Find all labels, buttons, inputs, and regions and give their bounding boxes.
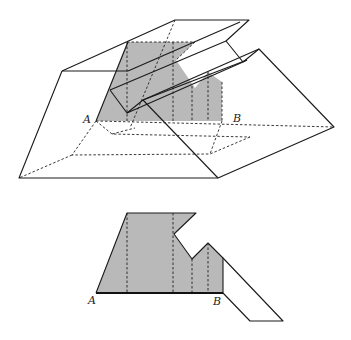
top-label-a: A xyxy=(82,113,91,126)
bottom-label-b: B xyxy=(212,295,221,308)
bottom-strip xyxy=(223,258,283,321)
bottom-label-a: A xyxy=(87,294,96,307)
bottom-figure: A B xyxy=(87,213,283,321)
bottom-shaded-polygon xyxy=(96,213,223,293)
diagram-canvas: A B A B xyxy=(0,0,351,340)
top-figure: A B xyxy=(19,20,334,178)
top-shaded-section xyxy=(96,42,222,121)
top-label-b: B xyxy=(232,112,241,125)
